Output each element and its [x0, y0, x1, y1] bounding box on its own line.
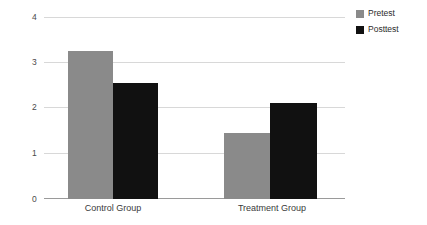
bar-control-posttest — [113, 83, 158, 199]
bars-layer — [44, 17, 345, 199]
legend-label-posttest: Posttest — [368, 24, 399, 35]
legend-swatch-pretest-icon — [356, 10, 364, 18]
y-axis-tick-4: 4 — [15, 12, 37, 22]
bar-control-pretest — [68, 51, 113, 199]
legend-item-posttest[interactable]: Posttest — [356, 24, 426, 35]
x-axis-label-treatment-group: Treatment Group — [225, 203, 319, 213]
bar-chart: 4 3 2 1 0 Control Group Treatment Group … — [0, 0, 427, 225]
legend-item-pretest[interactable]: Pretest — [356, 8, 426, 19]
y-axis-tick-1: 1 — [15, 148, 37, 158]
bar-treatment-posttest — [270, 103, 317, 199]
legend: Pretest Posttest — [356, 8, 426, 40]
y-axis-tick-0: 0 — [15, 194, 37, 204]
bar-treatment-pretest — [224, 133, 270, 199]
x-axis-label-control-group: Control Group — [68, 203, 158, 213]
y-axis-tick-3: 3 — [15, 57, 37, 67]
legend-label-pretest: Pretest — [368, 8, 395, 19]
y-axis-tick-2: 2 — [15, 102, 37, 112]
legend-swatch-posttest-icon — [356, 26, 364, 34]
